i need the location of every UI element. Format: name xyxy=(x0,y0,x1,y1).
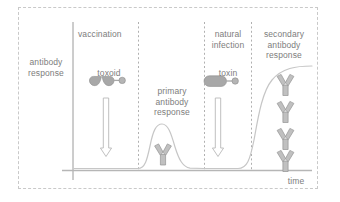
antigen-label-toxin: toxin xyxy=(205,68,251,79)
diagram-figure: antibody response vaccination toxoid pri… xyxy=(0,0,340,202)
phase-label-primary-response: primary antibody response xyxy=(141,86,203,118)
phase-label-vaccination: vaccination xyxy=(78,29,136,40)
phase-label-natural-infection: natural infection xyxy=(205,29,251,50)
infection-arrow-icon xyxy=(212,98,223,157)
phase-label-secondary-response: secondary antibody response xyxy=(253,29,315,61)
x-axis-label: time xyxy=(279,176,313,187)
vaccination-arrow-icon xyxy=(100,98,111,157)
y-axis-label: antibody response xyxy=(22,57,70,78)
primary-antibody-icon xyxy=(155,144,172,165)
antigen-label-toxoid: toxoid xyxy=(86,68,132,79)
secondary-antibody-stack xyxy=(277,74,294,171)
